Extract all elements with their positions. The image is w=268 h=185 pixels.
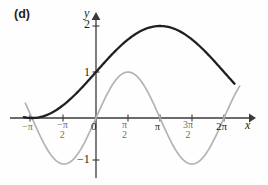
x-tick-label-2pi: 2π — [216, 121, 227, 132]
y-axis-arrow — [92, 12, 101, 20]
y-axis — [92, 12, 101, 178]
x-tick-label-pi: π — [155, 122, 160, 132]
x-tick-den: 2 — [57, 130, 68, 140]
x-axis-label: x — [245, 119, 250, 131]
y-tick-label-1: 1 — [84, 66, 90, 78]
x-tick-label-zero: 0 — [91, 121, 97, 132]
x-tick-label-3pi-over-2: 3π2 — [183, 120, 193, 140]
x-tick-label-minus-pi-over-2: −π2 — [57, 120, 68, 140]
x-tick-label-pi-over-2: π2 — [122, 120, 127, 140]
panel-label: (d) — [14, 8, 30, 21]
plot-canvas — [0, 0, 268, 185]
y-tick-label-2: 2 — [84, 18, 90, 30]
x-tick-den: 2 — [122, 130, 127, 140]
x-tick-den: 2 — [183, 130, 193, 140]
x-tick-label-minus-pi: −π — [22, 122, 33, 132]
y-tick-label-minus-1: −1 — [77, 153, 90, 165]
figure-panel: (d) y x 2 1 −1 −π −π2 0 π2 π 3π2 2π — [0, 0, 268, 185]
